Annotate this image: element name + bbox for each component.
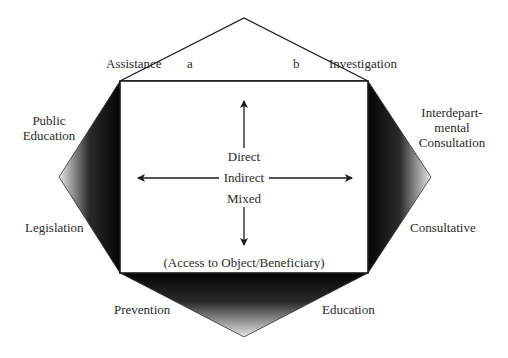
top-triangle xyxy=(120,18,368,81)
label-assistance: Assistance xyxy=(106,56,162,71)
left-triangle xyxy=(59,81,120,273)
label-interdepart: Interdepart- xyxy=(414,105,490,120)
label-b: b xyxy=(293,56,300,71)
label-interdepartmental-consultation: Interdepart- mental Consultation xyxy=(414,105,490,150)
label-education-left: Education xyxy=(18,128,80,143)
label-consultative: Consultative xyxy=(410,220,476,235)
label-mental: mental xyxy=(414,120,490,135)
label-education-bottom: Education xyxy=(322,302,375,317)
label-access-caption: (Access to Object/Beneficiary) xyxy=(144,255,344,270)
label-direct: Direct xyxy=(204,149,284,164)
label-investigation: Investigation xyxy=(329,56,397,71)
label-consultation: Consultation xyxy=(414,135,490,150)
label-mixed: Mixed xyxy=(204,191,284,206)
label-public-education: Public Education xyxy=(18,113,80,143)
label-public: Public xyxy=(18,113,80,128)
label-a: a xyxy=(187,56,193,71)
label-indirect: Indirect xyxy=(204,170,284,185)
label-prevention: Prevention xyxy=(114,302,170,317)
label-legislation: Legislation xyxy=(25,220,84,235)
